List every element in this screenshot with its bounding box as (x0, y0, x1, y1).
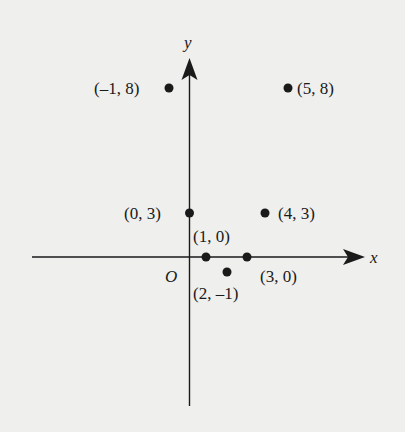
coordinate-plane: x y O (–1, 8) (5, 8) (0, 3) (4, 3) (1, 0… (0, 0, 405, 432)
point-4-3: (4, 3) (261, 204, 315, 223)
point-marker (284, 84, 293, 93)
point-marker (165, 84, 174, 93)
x-axis-label: x (369, 248, 378, 267)
point-2-neg1: (2, –1) (193, 268, 238, 304)
point-marker (202, 253, 211, 262)
point-marker (223, 268, 232, 277)
y-axis-label: y (182, 33, 192, 52)
point-label: (2, –1) (193, 284, 238, 303)
point-label: (–1, 8) (94, 79, 139, 98)
point-label: (0, 3) (124, 204, 161, 223)
point-5-8: (5, 8) (284, 79, 334, 98)
point-label: (4, 3) (278, 204, 315, 223)
point-label: (5, 8) (297, 79, 334, 98)
point-marker (261, 209, 270, 218)
point-label: (1, 0) (193, 227, 230, 246)
point-marker (185, 209, 194, 218)
point-label: (3, 0) (260, 267, 297, 286)
x-axis (32, 249, 365, 265)
origin-label: O (165, 267, 177, 286)
point-marker (243, 253, 252, 262)
point-0-3: (0, 3) (124, 204, 194, 223)
point-neg1-8: (–1, 8) (94, 79, 174, 98)
